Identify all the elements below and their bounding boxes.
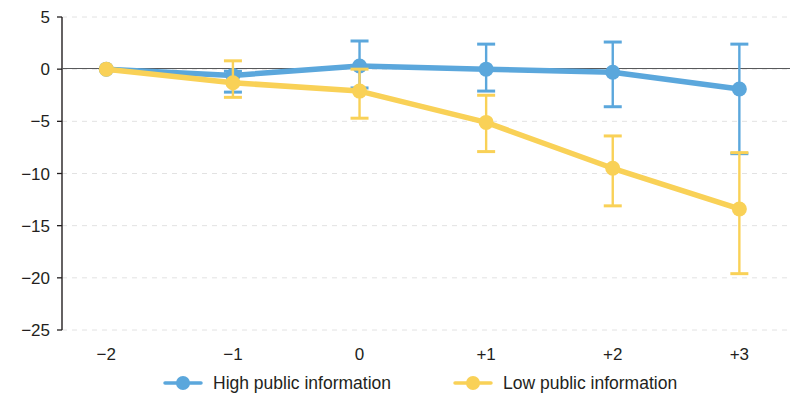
error-bar bbox=[730, 44, 748, 154]
chart-legend: High public informationLow public inform… bbox=[165, 373, 677, 393]
data-point-marker bbox=[732, 81, 747, 96]
line-chart: 50−5−10−15−20−25 −2−10+1+2+3 High public… bbox=[0, 0, 805, 401]
data-point-marker bbox=[352, 84, 367, 99]
x-tick-label: −2 bbox=[97, 345, 116, 364]
legend-label: Low public information bbox=[503, 373, 677, 393]
x-tick-label: +2 bbox=[603, 345, 622, 364]
gridlines-group bbox=[62, 17, 790, 330]
y-axis-tick-labels: 50−5−10−15−20−25 bbox=[21, 8, 50, 340]
series-low-public-information bbox=[99, 61, 749, 274]
x-tick-label: 0 bbox=[355, 345, 364, 364]
legend-swatch-marker bbox=[466, 376, 480, 390]
y-tick-label: −5 bbox=[31, 112, 50, 131]
legend-label: High public information bbox=[213, 373, 391, 393]
legend-swatch-marker bbox=[176, 376, 190, 390]
chart-container: 50−5−10−15−20−25 −2−10+1+2+3 High public… bbox=[0, 0, 805, 401]
data-point-marker bbox=[732, 201, 747, 216]
x-axis-tick-labels: −2−10+1+2+3 bbox=[97, 345, 749, 364]
data-point-marker bbox=[605, 161, 620, 176]
series-high-public-information bbox=[99, 41, 749, 154]
y-tick-label: −25 bbox=[21, 321, 50, 340]
legend-item[interactable]: High public information bbox=[165, 373, 391, 393]
x-tick-label: −1 bbox=[223, 345, 242, 364]
data-point-marker bbox=[479, 62, 494, 77]
y-tick-label: 0 bbox=[41, 60, 50, 79]
y-tick-marks-group bbox=[57, 17, 62, 330]
data-point-marker bbox=[605, 65, 620, 80]
data-point-marker bbox=[479, 115, 494, 130]
x-tick-label: +3 bbox=[730, 345, 749, 364]
legend-item[interactable]: Low public information bbox=[455, 373, 677, 393]
data-point-marker bbox=[99, 62, 114, 77]
y-tick-label: −15 bbox=[21, 217, 50, 236]
data-point-marker bbox=[225, 75, 240, 90]
x-tick-label: +1 bbox=[476, 345, 495, 364]
series-line bbox=[106, 69, 739, 209]
data-series-group bbox=[99, 41, 749, 274]
y-tick-label: 5 bbox=[41, 8, 50, 27]
y-tick-label: −20 bbox=[21, 269, 50, 288]
y-tick-label: −10 bbox=[21, 165, 50, 184]
